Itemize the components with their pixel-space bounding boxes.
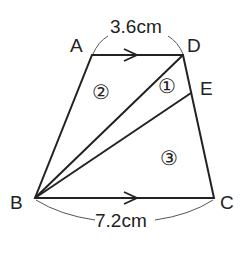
trapezoid-abcd [35,55,214,198]
vertex-d-label: D [187,35,201,56]
region-3-label: ③ [160,147,178,169]
bottom-brace-right [155,200,213,220]
vertex-a-label: A [70,35,83,56]
top-length-label: 3.6cm [110,16,162,37]
top-brace-left [93,36,108,54]
region-2-label: ② [92,81,110,103]
bottom-brace-left [36,200,95,220]
region-1-label: ① [158,75,176,97]
vertex-b-label: B [10,192,23,213]
vertex-e-label: E [200,78,213,99]
bottom-length-label: 7.2cm [95,210,147,231]
vertex-c-label: C [220,192,234,213]
top-brace-right [168,36,183,54]
segment-be [35,93,191,198]
trapezoid-diagram: 3.6cm 7.2cm A D E B C ② ① ③ [0,0,252,259]
